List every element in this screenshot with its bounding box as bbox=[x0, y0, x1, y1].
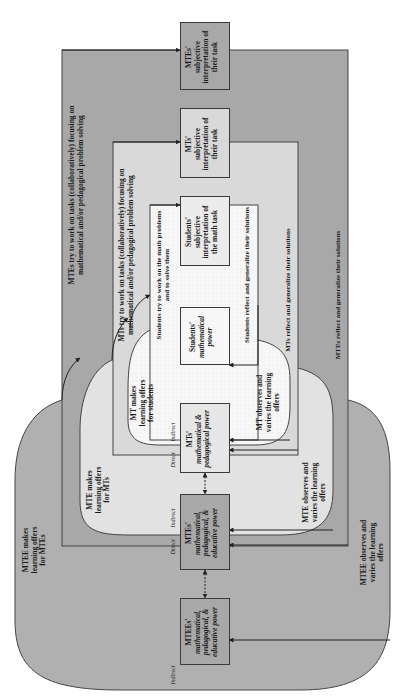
mte-observes-offers: MTE observes and varies the learning off… bbox=[302, 455, 328, 530]
mt-observes-offers: MT observes and varies the learning offe… bbox=[256, 365, 282, 440]
mts-work-line2: mathematical and/or pedagogical problem … bbox=[127, 140, 136, 370]
mtees-power-desc: mathematical, pedagogical, & educative p… bbox=[194, 601, 220, 663]
students-power-desc: mathematical power bbox=[198, 312, 215, 362]
mts-subjective-l4: their task bbox=[211, 113, 220, 175]
mtes-reflect-label: MTEs reflect and generalize their soluti… bbox=[334, 220, 342, 370]
mtes-subjective-box: MTEs' subjective interpretation of their… bbox=[180, 22, 230, 90]
students-work-line1: Students try to work on the math problem… bbox=[155, 205, 163, 345]
mtes-subjective-l4: their task bbox=[211, 27, 220, 87]
mte-makes-l3: for MTs bbox=[103, 460, 112, 520]
mtee-observes-l3: offers bbox=[377, 515, 386, 590]
mtee-makes-offers: MTEE makes learning offers for MTEs bbox=[22, 520, 48, 580]
mts-subjective-box: MTs' subjective interpretation of their … bbox=[180, 108, 230, 178]
mtes-work-line2: mathematical and/or pedagogical problem … bbox=[77, 60, 86, 330]
mtees-power-box: MTEEs' mathematical, pedagogical, & educ… bbox=[180, 598, 230, 665]
mtee-observes-offers: MTEE observes and varies the learning of… bbox=[360, 515, 386, 590]
students-reflect-label: Students reflect and generalize their so… bbox=[243, 205, 251, 345]
mtes-power-desc: mathematical, pedagogical, & educative p… bbox=[194, 498, 220, 568]
mtes-reflect-text: MTEs reflect and generalize their soluti… bbox=[334, 220, 342, 370]
students-work-label: Students try to work on the math problem… bbox=[155, 205, 171, 345]
mt-observes-l3: offers bbox=[273, 365, 282, 440]
mts-reflect-text: MTs reflect and generalize their solutio… bbox=[284, 220, 292, 360]
direct-label-mt: Direct bbox=[170, 445, 177, 475]
mtee-makes-l3: for MTEs bbox=[39, 520, 48, 580]
mt-makes-l3: for students bbox=[147, 368, 156, 438]
students-power-box: Students' mathematical power bbox=[180, 307, 230, 365]
indirect-label-mte: Indirect bbox=[170, 503, 177, 533]
mts-power-box: MTs' mathematical & pedagogical power bbox=[180, 403, 230, 473]
direct-label-mte: Direct bbox=[170, 532, 177, 562]
indirect-label-mtee: Indirect bbox=[170, 660, 177, 690]
students-work-line2: and to solve them bbox=[163, 205, 171, 345]
indirect-label-mt: Indirect bbox=[170, 417, 177, 447]
mts-reflect-label: MTs reflect and generalize their solutio… bbox=[284, 220, 292, 360]
mtes-work-label: MTEs try to work on tasks (collaborative… bbox=[68, 60, 85, 330]
mt-makes-offers: MT makes learning offers for students bbox=[130, 368, 156, 438]
students-subjective-l4: the math task bbox=[211, 201, 220, 263]
mts-power-desc: mathematical & pedagogical power bbox=[195, 408, 212, 470]
students-reflect-text: Students reflect and generalize their so… bbox=[243, 205, 251, 345]
mts-work-label: MTs try to work on tasks (collaborativel… bbox=[118, 140, 135, 370]
students-subjective-box: Students' subjective interpretation of t… bbox=[180, 196, 230, 266]
mte-observes-l3: offers bbox=[319, 455, 328, 530]
mtes-power-box: MTEs' mathematical, pedagogical, & educa… bbox=[180, 494, 230, 570]
mte-makes-offers: MTE makes learning offers for MTs bbox=[86, 460, 112, 520]
